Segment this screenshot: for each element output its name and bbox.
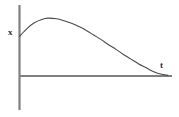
vertical-axis-label: x: [8, 28, 13, 37]
plot-canvas: [0, 0, 179, 117]
data-curve: [20, 18, 169, 75]
plot-figure: x t: [0, 0, 179, 117]
horizontal-axis-label: t: [160, 61, 163, 70]
